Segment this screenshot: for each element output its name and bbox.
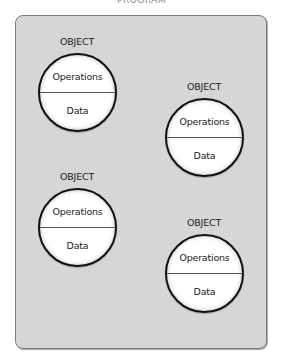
object-operations-3: Operations [40, 206, 115, 217]
program-title: PROGRAM [0, 0, 283, 5]
object-circle-3: Operations Data [38, 188, 117, 267]
object-operations-4: Operations [167, 252, 242, 263]
object-circle-2: Operations Data [165, 98, 244, 177]
object-label-1: OBJECT [32, 36, 122, 47]
object-label-4: OBJECT [159, 217, 249, 228]
object-label-3: OBJECT [32, 171, 122, 182]
object-data-2: Data [167, 150, 242, 161]
object-divider-3 [40, 227, 115, 228]
object-data-1: Data [40, 105, 115, 116]
object-circle-4: Operations Data [165, 234, 244, 313]
object-data-4: Data [167, 286, 242, 297]
object-label-2: OBJECT [159, 81, 249, 92]
object-operations-1: Operations [40, 71, 115, 82]
object-circle-1: Operations Data [38, 53, 117, 132]
object-divider-2 [167, 137, 242, 138]
object-operations-2: Operations [167, 116, 242, 127]
object-data-3: Data [40, 240, 115, 251]
object-divider-1 [40, 92, 115, 93]
object-divider-4 [167, 273, 242, 274]
